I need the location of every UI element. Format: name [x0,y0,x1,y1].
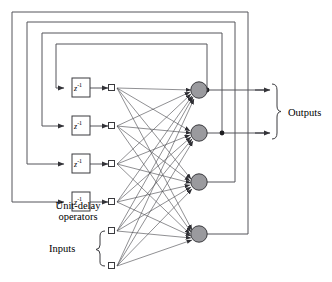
synapse [117,137,191,202]
node-3 [109,161,115,167]
neuron-4 [191,226,207,242]
synapse [117,240,192,266]
diagram-canvas [0,0,332,282]
synapse [117,96,192,202]
synapse [117,99,194,266]
brace-inputs [96,231,105,266]
unit-delay-label-line2: operators [36,211,120,222]
synapse [117,164,190,234]
delay-block-2-label: z-1 [74,120,82,131]
synapse [117,126,191,232]
delay-label-exponent: -1 [77,120,82,126]
delay-label-exponent: -1 [77,82,82,88]
inputs-label: Inputs [49,243,75,254]
synapse [117,88,190,131]
junction-dots [205,88,225,136]
neuron-1 [191,82,207,98]
synapse [117,88,191,90]
output-arrows [255,90,270,133]
junction-dot-2 [220,131,225,136]
node-1 [109,85,115,91]
neuron-2 [191,125,207,141]
unit-delay-blocks [72,78,90,211]
delay-to-node-lines [90,88,108,202]
feedback-loop-3 [27,22,235,182]
unit-delay-label-line1: Unit-delay [36,200,120,211]
node-6 [109,263,115,269]
delay-block-1-label: z-1 [74,82,82,93]
synapse [117,135,190,164]
delay-label-exponent: -1 [77,158,82,164]
node-5 [109,228,115,234]
unit-delay-operators-label: Unit-delay operators [36,200,120,223]
node-2 [109,123,115,129]
brace-outputs [272,84,281,139]
synapse-connections [117,88,194,266]
synapse [117,231,191,238]
neurons [191,82,207,242]
synapse [117,189,192,266]
delay-block-3-label: z-1 [74,158,82,169]
neuron-3 [191,174,207,190]
outputs-label: Outputs [288,107,321,118]
input-nodes [109,85,115,269]
recurrent-network-diagram: z-1 z-1 z-1 z-1 Unit-delay operators Inp… [0,0,332,282]
